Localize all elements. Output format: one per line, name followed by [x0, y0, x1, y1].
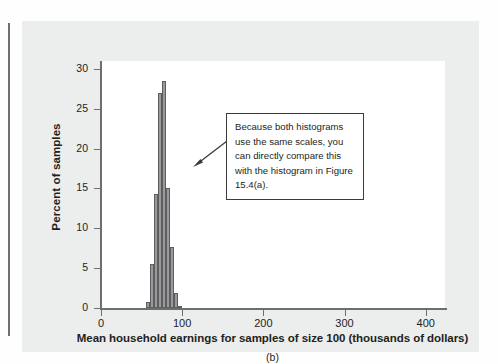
x-tick-label: 0	[81, 317, 121, 329]
x-tick-label: 100	[162, 317, 202, 329]
y-tick-label: 0	[62, 301, 88, 313]
annotation-callout: Because both histograms use the same sca…	[226, 113, 364, 200]
histogram-bar	[178, 306, 182, 308]
y-tick-label: 20	[62, 142, 88, 154]
y-axis-title: Percent of samples	[50, 107, 62, 247]
x-axis-line	[100, 308, 447, 310]
figure-page: 051015202530 0100200300400 Percent of sa…	[0, 0, 499, 364]
y-tick-label: 15	[62, 181, 88, 193]
x-tick-label: 200	[243, 317, 283, 329]
x-tick-label: 300	[325, 317, 365, 329]
x-tick	[345, 309, 346, 316]
x-tick-label: 400	[406, 317, 446, 329]
y-tick-label: 10	[62, 221, 88, 233]
x-tick	[182, 309, 183, 316]
x-tick	[263, 309, 264, 316]
y-tick	[94, 109, 101, 110]
y-tick	[94, 149, 101, 150]
x-tick	[101, 309, 102, 316]
figure-panel: 051015202530 0100200300400 Percent of sa…	[22, 21, 479, 352]
y-tick-label: 5	[62, 261, 88, 273]
y-tick	[94, 308, 101, 309]
x-tick	[426, 309, 427, 316]
y-tick	[94, 228, 101, 229]
y-tick	[94, 188, 101, 189]
y-tick	[94, 268, 101, 269]
page-left-rule	[8, 23, 10, 336]
x-axis-title: Mean household earnings for samples of s…	[44, 332, 499, 344]
y-tick	[94, 69, 101, 70]
figure-sub-caption: (b)	[44, 351, 499, 363]
y-tick-label: 25	[62, 102, 88, 114]
y-tick-label: 30	[62, 62, 88, 74]
y-axis-line	[100, 61, 102, 310]
